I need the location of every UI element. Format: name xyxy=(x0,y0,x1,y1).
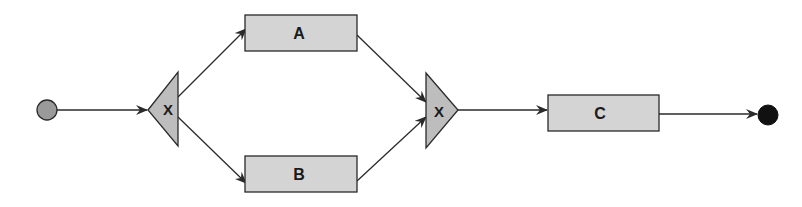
edge-a-to-join xyxy=(357,35,426,102)
task-b[interactable]: B xyxy=(245,156,357,192)
task-a-label: A xyxy=(293,25,305,42)
split-gateway[interactable]: X xyxy=(148,72,178,146)
end-event[interactable] xyxy=(758,105,778,125)
join-gateway-label: X xyxy=(434,103,444,120)
split-gateway-label: X xyxy=(163,101,173,118)
process-diagram: X A B X C xyxy=(0,0,802,207)
start-event[interactable] xyxy=(37,100,57,120)
task-c-label: C xyxy=(594,105,606,122)
edge-split-to-a xyxy=(178,29,246,97)
task-b-label: B xyxy=(293,166,305,183)
edge-b-to-join xyxy=(357,117,426,181)
task-c[interactable]: C xyxy=(548,95,659,131)
task-a[interactable]: A xyxy=(245,15,357,51)
edge-split-to-b xyxy=(178,117,246,183)
join-gateway[interactable]: X xyxy=(426,73,458,148)
